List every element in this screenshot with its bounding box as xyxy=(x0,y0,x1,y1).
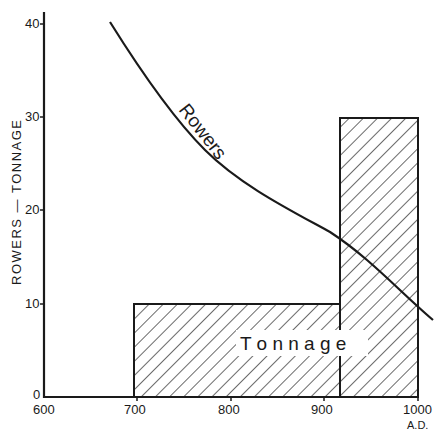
y-tick-20: 20 xyxy=(25,202,39,217)
rowers-tonnage-chart: T o n n a g e Rowers 40 30 20 10 0 600 7… xyxy=(0,0,445,436)
y-tick-40: 40 xyxy=(25,16,39,31)
rowers-label: Rowers xyxy=(175,100,231,164)
x-tick-1000: 1000 xyxy=(403,402,432,417)
y-tick-0: 0 xyxy=(33,387,40,402)
x-tick-900: 900 xyxy=(311,402,333,417)
y-tick-30: 30 xyxy=(25,109,39,124)
x-tick-700: 700 xyxy=(124,402,146,417)
x-axis-unit: A.D. xyxy=(407,419,428,431)
y-axis-title: ROWERS — TONNAGE xyxy=(9,118,24,285)
y-ticks: 40 30 20 10 0 xyxy=(25,16,44,402)
y-tick-10: 10 xyxy=(25,296,39,311)
x-ticks: 600 700 800 900 1000 A.D. xyxy=(33,397,432,431)
x-tick-600: 600 xyxy=(33,402,55,417)
tonnage-label: T o n n a g e xyxy=(240,333,346,354)
x-tick-800: 800 xyxy=(218,402,240,417)
